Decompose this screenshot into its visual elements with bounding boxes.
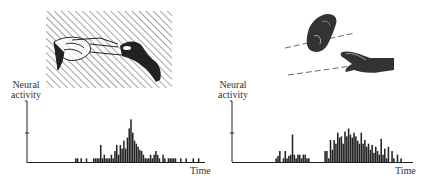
- histogram-bar: [143, 155, 145, 162]
- histogram-bar: [104, 155, 106, 162]
- histogram-bar: [180, 158, 182, 162]
- histogram-bar: [304, 155, 306, 162]
- histogram-bar: [301, 158, 303, 162]
- histogram-bar: [164, 158, 166, 162]
- open-hand-icon: [341, 51, 394, 72]
- histogram-bar: [95, 158, 97, 162]
- histogram-bar: [279, 151, 281, 162]
- histogram-bar: [107, 158, 109, 162]
- histogram-bar: [357, 141, 359, 162]
- histogram-bar: [136, 144, 138, 162]
- histogram-bar: [105, 158, 107, 162]
- histogram-bar: [118, 155, 120, 162]
- right-panel: Neural activity Time: [210, 0, 421, 185]
- histogram-bar: [333, 140, 335, 162]
- histogram-bar: [144, 158, 146, 162]
- histogram-bar: [130, 119, 132, 162]
- histogram-bar: [96, 158, 98, 162]
- histogram-bar: [359, 144, 361, 162]
- histogram-bar: [377, 151, 379, 162]
- histogram-bar: [277, 156, 279, 162]
- histogram-bar: [286, 158, 288, 162]
- histogram-bar: [80, 158, 82, 162]
- histogram-bar: [292, 135, 294, 162]
- histogram-bar: [185, 158, 187, 162]
- right-ylabel-line2: activity: [212, 90, 254, 100]
- histogram-bar: [193, 158, 195, 162]
- left-ylabel-line2: activity: [5, 90, 47, 100]
- histogram-bar: [368, 144, 370, 162]
- histogram-bar: [353, 133, 355, 162]
- histogram-bar: [159, 158, 161, 162]
- histogram-bar: [86, 158, 88, 162]
- histogram-bar: [141, 151, 143, 162]
- histogram-bar: [162, 155, 164, 162]
- histogram-bar: [386, 158, 388, 162]
- histogram-bar: [348, 128, 350, 162]
- histogram-bar: [379, 155, 381, 162]
- histogram-bar: [175, 158, 177, 162]
- histogram-bar: [388, 147, 390, 162]
- histogram-bar: [125, 149, 127, 162]
- histogram-bar: [134, 141, 136, 162]
- histogram-bar: [375, 147, 377, 162]
- right-xlabel: Time: [395, 166, 416, 176]
- histogram-bar: [275, 158, 277, 162]
- histogram-bar: [364, 140, 366, 162]
- histogram-bar: [400, 158, 402, 162]
- histogram-bar: [171, 158, 173, 162]
- histogram-bar: [150, 155, 152, 162]
- histogram-bar: [308, 158, 310, 162]
- left-xlabel: Time: [190, 166, 211, 176]
- histogram-bar: [384, 149, 386, 162]
- right-histogram-bars: [275, 128, 401, 162]
- histogram-bar: [337, 133, 339, 162]
- histogram-bar: [120, 145, 122, 162]
- histogram-bar: [361, 133, 363, 162]
- histogram-bar: [297, 155, 299, 162]
- histogram-bar: [77, 158, 79, 162]
- histogram-bar: [380, 139, 382, 162]
- histogram-bar: [295, 158, 297, 162]
- histogram-bar: [123, 141, 125, 162]
- histogram-bar: [330, 140, 332, 162]
- histogram-bar: [350, 135, 352, 162]
- histogram-bar: [299, 155, 301, 162]
- histogram-bar: [339, 138, 341, 162]
- histogram-bar: [324, 151, 326, 162]
- histogram-bar: [100, 145, 102, 162]
- histogram-bar: [335, 144, 337, 162]
- histogram-bar: [342, 144, 344, 162]
- histogram-bar: [109, 158, 111, 162]
- histogram-bar: [114, 151, 116, 162]
- histogram-bar: [137, 147, 139, 162]
- left-ylabel: Neural activity: [5, 80, 47, 100]
- histogram-bar: [284, 151, 286, 162]
- histogram-bar: [370, 150, 372, 162]
- histogram-bar: [198, 158, 200, 162]
- histogram-bar: [157, 155, 159, 162]
- histogram-bar: [332, 150, 334, 162]
- histogram-bar: [132, 133, 134, 162]
- histogram-bar: [283, 158, 285, 162]
- left-histogram-bars: [75, 119, 199, 162]
- histogram-bar: [128, 128, 130, 162]
- histogram-bar: [93, 158, 95, 162]
- histogram-bar: [290, 155, 292, 162]
- histogram-bar: [121, 149, 123, 162]
- histogram-bar: [102, 158, 104, 162]
- histogram-bar: [148, 158, 150, 162]
- histogram-bar: [393, 158, 395, 162]
- right-ylabel: Neural activity: [212, 80, 254, 100]
- histogram-bar: [139, 150, 141, 162]
- histogram-bar: [397, 155, 399, 162]
- histogram-bar: [371, 145, 373, 162]
- histogram-bar: [306, 158, 308, 162]
- histogram-bar: [362, 144, 364, 162]
- histogram-bar: [111, 155, 113, 162]
- histogram-bar: [127, 138, 129, 162]
- histogram-bar: [346, 136, 348, 162]
- histogram-bar: [173, 158, 175, 162]
- histogram-bar: [116, 145, 118, 162]
- grasping-hand-icon: [307, 14, 337, 52]
